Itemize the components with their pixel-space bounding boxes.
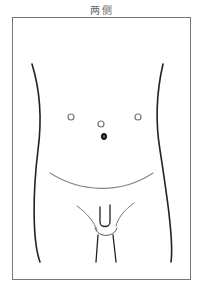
- navel-highlight: [103, 136, 105, 138]
- torso-diagram: [0, 0, 204, 296]
- right-thigh-line: [113, 235, 116, 262]
- right-body-outline: [157, 64, 171, 262]
- left-groin-line: [77, 206, 97, 230]
- inguinal-curve: [50, 173, 153, 188]
- scrotum-outline: [95, 228, 117, 236]
- left-thigh-line: [96, 235, 98, 262]
- right-groin-line: [116, 203, 134, 226]
- left-body-outline: [32, 64, 40, 262]
- left-port-marker: [68, 114, 74, 120]
- right-port-marker: [135, 114, 141, 120]
- center-port-marker: [98, 121, 104, 127]
- genital-outline: [100, 205, 110, 227]
